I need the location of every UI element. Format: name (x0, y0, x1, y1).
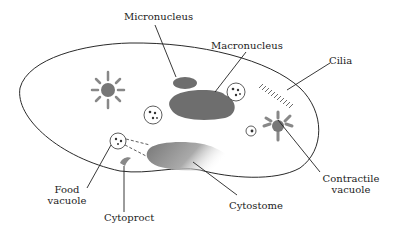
food-vacuole-2 (227, 83, 245, 101)
label-food-vacuole: Food vacuole (44, 184, 90, 206)
label-macronucleus: Macronucleus (211, 40, 283, 51)
contractile-vacuole-right (264, 112, 292, 140)
contractile-vacuole-left (92, 72, 124, 108)
label-food-vacuole-line2: vacuole (44, 195, 90, 206)
micronucleus (173, 77, 197, 89)
macronucleus (169, 90, 235, 120)
label-food-vacuole-line1: Food (44, 184, 90, 195)
cytoproct (120, 157, 131, 166)
cytostome (147, 142, 232, 171)
label-cytoproct: Cytoproct (104, 212, 154, 223)
cilia (259, 84, 293, 108)
food-vacuole-3 (246, 126, 256, 136)
label-contractile-vacuole: Contractile vacuole (318, 173, 384, 195)
label-micronucleus: Micronucleus (124, 11, 193, 22)
label-cilia: Cilia (329, 55, 352, 66)
label-contractile-vacuole-line1: Contractile (318, 173, 384, 184)
food-vacuole-forming (110, 133, 126, 149)
label-contractile-vacuole-line2: vacuole (318, 184, 384, 195)
label-cytostome: Cytostome (229, 200, 283, 211)
food-vacuole-1 (144, 106, 162, 124)
